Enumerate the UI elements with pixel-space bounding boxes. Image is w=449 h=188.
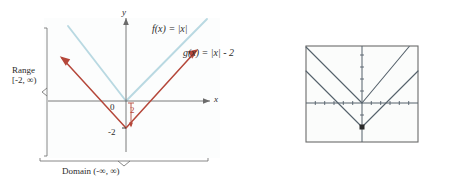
tick-label-origin: 0 (110, 103, 115, 113)
analytic-graph-panel: f(x) = |x| g(x) = |x| - 2 y x 0 2 -2 Ran… (0, 0, 290, 188)
domain-bracket (40, 158, 208, 166)
axis-label-x: x (214, 95, 218, 105)
calculator-panel: 5 -3 -6 6 f g (290, 0, 449, 188)
calculator-screen-canvas (290, 0, 449, 188)
analytic-graph-canvas (0, 0, 290, 188)
axis-label-y: y (122, 8, 126, 18)
function-label-f: f(x) = |x| (152, 23, 188, 34)
calculator-vertex-marker (360, 125, 365, 130)
tick-label-y-neg2: -2 (108, 128, 116, 138)
function-label-g: g(x) = |x| - 2 (183, 47, 234, 58)
shift-amount-label: 2 (130, 106, 135, 116)
range-annotation: Range [-2, ∞) (12, 66, 36, 86)
range-annotation-line1: Range (12, 65, 35, 75)
figure-root: f(x) = |x| g(x) = |x| - 2 y x 0 2 -2 Ran… (0, 0, 449, 188)
domain-annotation: Domain (-∞, ∞) (62, 167, 120, 177)
plot-background (44, 18, 220, 158)
range-annotation-line2: [-2, ∞) (12, 76, 36, 86)
